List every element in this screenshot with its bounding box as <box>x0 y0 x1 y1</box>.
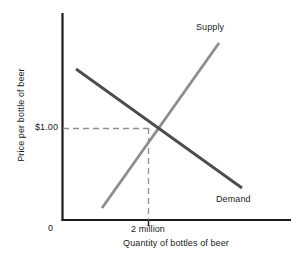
supply-curve-label: Supply <box>196 22 224 32</box>
y-tick-label-price: $1.00 <box>25 122 58 132</box>
supply-demand-chart: Price per bottle of beer Quantity of bot… <box>0 0 299 257</box>
origin-label: 0 <box>48 223 53 233</box>
x-axis-label: Quantity of bottles of beer <box>62 238 290 248</box>
demand-curve-label: Demand <box>216 194 251 204</box>
x-tick-label-quantity: 2 million <box>98 224 198 234</box>
y-axis-label: Price per bottle of beer <box>16 45 26 185</box>
demand-curve <box>76 69 242 188</box>
supply-curve <box>102 43 219 208</box>
